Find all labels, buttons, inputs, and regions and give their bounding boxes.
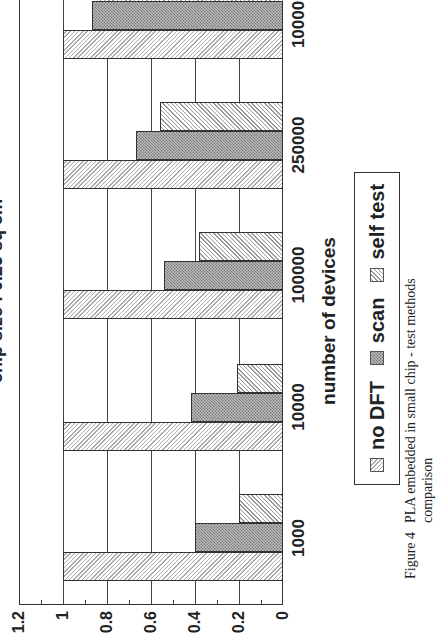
category-label: 250000	[289, 95, 309, 195]
category-label: 1000000	[289, 0, 309, 65]
chart-title: chip size : 0.25 sq cm	[0, 61, 7, 521]
legend-swatch-nodft	[370, 458, 384, 472]
bar-nodft-250000	[63, 160, 283, 189]
category-label: 100000	[289, 225, 309, 325]
bar-nodft-1000	[63, 552, 283, 581]
ytick-label: 0	[275, 611, 291, 641]
ytick-label: 0.4	[187, 611, 203, 641]
bar-scan-250000	[136, 131, 283, 160]
figure-number: Figure 4	[402, 523, 419, 579]
legend-label: scan	[366, 298, 389, 344]
bar-scan-1000	[195, 523, 283, 552]
bar-self-10000	[237, 364, 283, 393]
legend: no DFT scan self test	[354, 172, 400, 485]
bar-self-1000000	[98, 0, 283, 1]
caption-line-2: comparison	[420, 458, 435, 523]
category-label: 1000	[289, 488, 309, 588]
caption-line-1: PLA embedded in small chip - test method…	[403, 278, 418, 523]
legend-label: self test	[366, 184, 389, 260]
legend-item-nodft: no DFT	[366, 381, 389, 472]
legend-label: no DFT	[366, 381, 389, 450]
bar-scan-100000	[164, 261, 283, 290]
legend-swatch-selftest	[370, 268, 384, 282]
bar-nodft-1000000	[63, 30, 283, 59]
bar-scan-1000000	[92, 1, 283, 30]
ytick-label: 0.2	[231, 611, 247, 641]
bar-scan-10000	[191, 393, 283, 422]
legend-swatch-scan	[370, 351, 384, 365]
category-label: 10000	[289, 357, 309, 457]
legend-item-selftest: self test	[366, 184, 389, 282]
bar-self-1000	[239, 494, 283, 523]
figure-caption: Figure 4PLA embedded in small chip - tes…	[402, 59, 436, 579]
x-axis-label: number of devices	[318, 161, 340, 481]
rotated-figure: chip size : 0.25 sq cm 0 0.2 0.4 0.6 0.8…	[0, 0, 438, 641]
ytick-label: 1.2	[11, 611, 27, 641]
bar-nodft-100000	[63, 290, 283, 319]
bar-self-250000	[160, 102, 283, 131]
ytick-label: 0.6	[143, 611, 159, 641]
bar-self-100000	[199, 232, 283, 261]
legend-item-scan: scan	[366, 298, 389, 366]
ytick-label: 0.8	[99, 611, 115, 641]
bar-nodft-10000	[63, 422, 283, 451]
ytick-label: 1	[55, 611, 71, 641]
